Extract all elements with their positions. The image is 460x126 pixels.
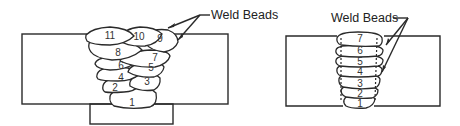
left-weld-beads-label: Weld Beads [211, 8, 278, 22]
right-plate-right [374, 36, 440, 106]
right-weld-diagram: 7 6 5 4 3 2 1 Weld Beads [286, 11, 440, 109]
bead-label-7: 7 [152, 52, 158, 63]
bead-label-8: 8 [115, 47, 121, 58]
bead-label-9: 9 [157, 33, 163, 44]
left-weld-diagram: 1 2 3 4 5 6 7 8 9 10 11 Weld Beads [22, 8, 278, 124]
bead-label-4: 4 [118, 72, 124, 83]
bead-label-10: 10 [133, 31, 145, 42]
right-weld-beads-label: Weld Beads [331, 11, 398, 25]
bead-label-5: 5 [148, 62, 154, 73]
bead-label-3: 3 [144, 76, 150, 87]
bead-label-2: 2 [112, 82, 118, 93]
right-plate-left [286, 36, 343, 106]
arrowhead-icon [386, 38, 390, 45]
bead-label-7: 7 [357, 33, 363, 44]
arrowhead-icon [168, 23, 175, 28]
bead-label-6: 6 [118, 60, 124, 71]
bead-label-1: 1 [129, 97, 135, 108]
bead-label-1: 1 [357, 98, 363, 109]
right-leader-arrow-2 [382, 18, 408, 72]
weld-bead-diagram: 1 2 3 4 5 6 7 8 9 10 11 Weld Beads 7 6 [0, 0, 460, 126]
bead-label-6: 6 [357, 45, 363, 56]
bead-label-4: 4 [357, 66, 363, 77]
bead-label-11: 11 [105, 30, 116, 41]
